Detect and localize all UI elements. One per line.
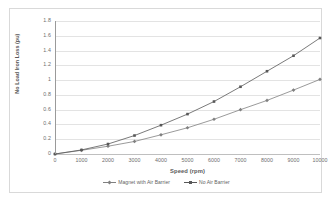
legend-entry-1[interactable]: Magnet with Air Barrier bbox=[103, 179, 170, 185]
x-axis-title: Speed (rpm) bbox=[55, 168, 320, 174]
data-point-marker bbox=[318, 78, 322, 82]
y-axis-tick-label: 0.8 bbox=[25, 92, 51, 97]
y-axis-tick-label: 1.6 bbox=[25, 33, 51, 38]
data-point-marker bbox=[133, 140, 137, 144]
y-axis-tick-labels: 00.20.40.60.811.21.41.61.8 bbox=[21, 21, 51, 154]
x-axis-tick-labels: 0100020003000400050006000700080009000100… bbox=[55, 158, 320, 168]
data-point-marker bbox=[292, 54, 295, 57]
x-axis-tick-label: 5000 bbox=[181, 158, 193, 163]
data-point-marker bbox=[107, 143, 110, 146]
chart-frame: No Load Iron Loss (pu) 00.20.40.60.811.2… bbox=[9, 8, 322, 193]
x-axis-tick-label: 4000 bbox=[155, 158, 167, 163]
data-point-marker bbox=[133, 134, 136, 137]
data-point-marker bbox=[186, 126, 190, 130]
y-axis-line bbox=[55, 21, 56, 154]
data-point-marker bbox=[239, 108, 243, 112]
chart-legend: Magnet with Air BarrierNo Air Barrier bbox=[10, 179, 323, 185]
y-axis-tick-label: 1.4 bbox=[25, 48, 51, 53]
y-axis-tick-label: 0 bbox=[25, 151, 51, 156]
series-1 bbox=[53, 78, 322, 156]
data-point-marker bbox=[186, 113, 189, 116]
data-point-marker bbox=[292, 88, 296, 92]
x-axis-tick-label: 8000 bbox=[261, 158, 273, 163]
y-axis-tick-label: 1.8 bbox=[25, 18, 51, 23]
x-axis-tick-label: 2000 bbox=[102, 158, 114, 163]
legend-label: Magnet with Air Barrier bbox=[118, 179, 170, 185]
data-point-marker bbox=[160, 124, 163, 127]
x-axis-tick-label: 10000 bbox=[312, 158, 327, 163]
series-line bbox=[55, 79, 320, 154]
data-point-marker bbox=[213, 100, 216, 103]
y-axis-tick-label: 1 bbox=[25, 77, 51, 82]
y-axis-tick-label: 1.2 bbox=[25, 62, 51, 67]
data-point-marker bbox=[319, 37, 322, 40]
x-axis-tick-label: 9000 bbox=[287, 158, 299, 163]
y-axis-tick-label: 0.2 bbox=[25, 136, 51, 141]
series-2 bbox=[54, 37, 322, 156]
data-point-marker bbox=[212, 117, 216, 121]
legend-entry-2[interactable]: No Air Barrier bbox=[184, 179, 230, 185]
x-axis-tick-label: 3000 bbox=[128, 158, 140, 163]
data-point-marker bbox=[80, 149, 83, 152]
x-axis-tick-label: 0 bbox=[53, 158, 56, 163]
y-axis-tick-label: 0.4 bbox=[25, 121, 51, 126]
legend-swatch-icon bbox=[103, 179, 116, 185]
x-axis-tick-label: 6000 bbox=[208, 158, 220, 163]
y-axis-title: No Load Iron Loss (pu) bbox=[15, 34, 20, 94]
series-layer bbox=[55, 21, 320, 154]
x-axis-tick-label: 7000 bbox=[234, 158, 246, 163]
legend-swatch-icon bbox=[184, 179, 197, 185]
x-axis-tick-label: 1000 bbox=[75, 158, 87, 163]
data-point-marker bbox=[239, 85, 242, 88]
series-line bbox=[55, 38, 320, 154]
plot-area bbox=[55, 21, 320, 154]
data-point-marker bbox=[265, 99, 269, 103]
legend-label: No Air Barrier bbox=[199, 179, 230, 185]
gridline bbox=[55, 154, 320, 155]
data-point-marker bbox=[159, 133, 163, 137]
y-axis-tick-label: 0.6 bbox=[25, 107, 51, 112]
data-point-marker bbox=[266, 70, 269, 73]
